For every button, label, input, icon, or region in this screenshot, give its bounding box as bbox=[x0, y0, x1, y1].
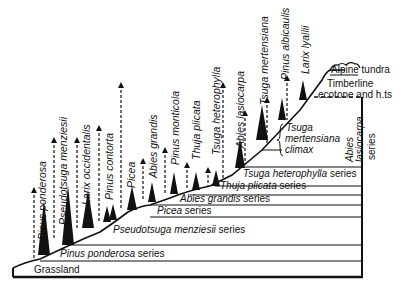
series-pinus-ponderosa: Pinus ponderosa series bbox=[60, 248, 165, 259]
alpine-tundra-label: Alpine tundra bbox=[331, 64, 390, 75]
vegetation-zonation-diagram: Pinus ponderosa Pseudotsuga menziesii La… bbox=[0, 0, 400, 289]
label-pseudotsuga-menziesii: Pseudotsuga menziesii bbox=[57, 116, 69, 225]
label-pinus-albicaulis: Pinus albicaulis bbox=[279, 7, 291, 80]
svg-text:climax: climax bbox=[285, 144, 314, 155]
label-larix-occidentalis: Larix occidentalis bbox=[80, 124, 92, 205]
label-pinus-contorta: Pinus contorta bbox=[103, 133, 115, 200]
label-picea: Picea bbox=[125, 162, 137, 188]
label-thuja-plicata: Thuja plicata bbox=[190, 100, 202, 160]
grassland-label: Grassland bbox=[34, 264, 80, 275]
timberline-label-2: ecotone and h.ts bbox=[318, 89, 392, 100]
series-thuja-plicata: Thuja plicata series bbox=[220, 180, 306, 191]
series-picea: Picea series bbox=[157, 205, 211, 216]
svg-text:mertensiana: mertensiana bbox=[285, 133, 340, 144]
series-pseudotsuga-menziesii: Pseudotsuga menziesii series bbox=[113, 224, 245, 235]
timberline-label-1: Timberline bbox=[327, 78, 374, 89]
svg-text:series: series bbox=[366, 133, 377, 160]
svg-text:Tsuga: Tsuga bbox=[286, 122, 313, 133]
label-abies-lasiocarpa: Abies lasiocarpa bbox=[234, 71, 246, 149]
svg-text:lasiocarpa: lasiocarpa bbox=[354, 116, 365, 162]
series-tsuga-heterophylla: Tsuga heterophylla series bbox=[243, 168, 357, 179]
label-pinus-monticola: Pinus monticola bbox=[169, 91, 181, 165]
label-tsuga-heterophylla: Tsuga heterophylla bbox=[210, 66, 222, 155]
label-tsuga-mertensiana: Tsuga mertensiana bbox=[258, 16, 270, 105]
abies-lasiocarpa-series-label: Abies lasiocarpa series bbox=[344, 116, 377, 163]
label-larix-lyallii: Larix lyallii bbox=[299, 25, 311, 74]
series-abies-grandis: Abies grandis series bbox=[179, 193, 270, 204]
tsuga-mertensiana-climax-label: Tsuga mertensiana climax bbox=[277, 122, 340, 156]
label-pinus-ponderosa: Pinus ponderosa bbox=[36, 161, 48, 240]
label-abies-grandis: Abies grandis bbox=[147, 114, 159, 179]
